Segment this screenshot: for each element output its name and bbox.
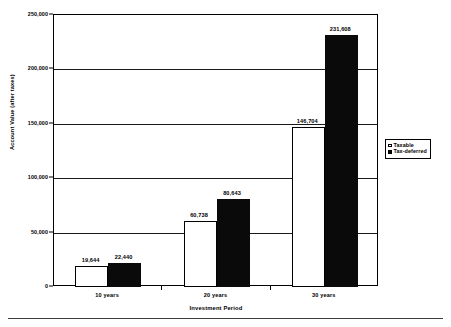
- footer-divider: [8, 318, 443, 319]
- y-tick-label: 250,000: [28, 11, 48, 17]
- y-tick-label: 200,000: [28, 65, 48, 71]
- y-tick-label: 50,000: [31, 229, 48, 235]
- white-square-icon: [388, 144, 392, 148]
- x-tick-mark: [270, 286, 271, 290]
- bar-value-label: 146,704: [297, 118, 318, 124]
- bar-tax-deferred-10-years: [108, 263, 141, 287]
- x-axis-title: Investment Period: [190, 305, 243, 311]
- y-tick-label: 150,000: [28, 120, 48, 126]
- x-tick-label: 20 years: [204, 292, 228, 298]
- plot-area: [53, 14, 378, 286]
- y-tick-label: 0: [45, 283, 48, 289]
- bar-tax-deferred-20-years: [217, 199, 250, 287]
- bar-value-label: 80,643: [223, 190, 241, 196]
- chart-legend[interactable]: Taxable Tax-deferred: [385, 139, 431, 159]
- bar-taxable-10-years: [75, 266, 108, 287]
- bar-value-label: 22,440: [115, 254, 133, 260]
- bar-tax-deferred-30-years: [325, 35, 358, 287]
- x-tick-label: 10 years: [95, 292, 119, 298]
- x-tick-mark: [161, 286, 162, 290]
- black-square-icon: [388, 150, 392, 154]
- bar-taxable-20-years: [184, 221, 217, 287]
- bar-value-label: 19,644: [82, 257, 100, 263]
- y-axis-title: Account Value (after taxes): [9, 74, 15, 150]
- y-tick-label: 100,000: [28, 174, 48, 180]
- bar-value-label: 231,608: [330, 26, 351, 32]
- legend-label-tax-deferred: Tax-deferred: [394, 149, 427, 154]
- bar-value-label: 60,738: [190, 212, 208, 218]
- legend-item-tax-deferred[interactable]: Tax-deferred: [388, 149, 427, 154]
- bar-taxable-30-years: [292, 127, 325, 287]
- bar-chart-figure: Account Value (after taxes) 050,000100,0…: [0, 0, 451, 327]
- x-tick-label: 30 years: [312, 292, 336, 298]
